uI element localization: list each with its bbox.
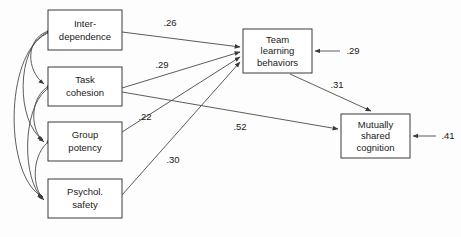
coefficient-label-disturbance-29: .29 — [346, 45, 359, 56]
coefficient-label-31: .31 — [330, 79, 343, 90]
path-diagram-canvas: Inter- dependence Task cohesion Group po… — [0, 0, 461, 237]
path-diagram-svg: Inter- dependence Task cohesion Group po… — [0, 0, 461, 237]
node-interdependence-label-line1: Inter- — [74, 18, 96, 29]
node-psychol-safety-label-line2: safety — [72, 199, 98, 210]
node-mutually-shared-cognition-label-line1: Mutually — [358, 119, 394, 130]
coefficient-label-22: .22 — [138, 111, 151, 122]
path-psychol-safety-to-mutually-shared — [122, 62, 240, 195]
node-team-learning-behaviors-label-line3: behaviors — [257, 57, 298, 68]
correlation-arcs-group — [14, 32, 46, 200]
node-group-potency[interactable]: Group potency — [48, 122, 122, 161]
node-psychol-safety-label-line1: Psychol. — [67, 186, 103, 197]
node-mutually-shared-cognition-label-line2: shared — [361, 130, 390, 141]
path-interdependence-to-team-learning — [122, 32, 240, 47]
node-task-cohesion-label-line2: cohesion — [66, 87, 104, 98]
node-interdependence-label-line2: dependence — [59, 31, 111, 42]
node-task-cohesion[interactable]: Task cohesion — [48, 67, 122, 106]
path-task-cohesion-to-mutually-shared — [122, 92, 338, 129]
node-group-potency-label-line1: Group — [72, 129, 98, 140]
coefficient-label-30: .30 — [166, 154, 179, 165]
node-interdependence[interactable]: Inter- dependence — [48, 10, 122, 50]
node-group-potency-label-line2: potency — [68, 142, 102, 153]
node-mutually-shared-cognition[interactable]: Mutually shared cognition — [341, 114, 410, 158]
coefficient-label-26: .26 — [163, 17, 176, 28]
node-psychol-safety[interactable]: Psychol. safety — [48, 179, 122, 218]
correlation-task-cohesion-psychol-safety — [28, 90, 46, 199]
node-task-cohesion-label-line1: Task — [75, 74, 95, 85]
coefficient-label-29-task-cohesion: .29 — [155, 59, 168, 70]
node-team-learning-behaviors[interactable]: Team learning behaviors — [243, 29, 312, 73]
coefficient-label-52: .52 — [233, 121, 246, 132]
node-team-learning-behaviors-label-line2: learning — [261, 45, 295, 56]
coefficient-label-disturbance-41: .41 — [441, 130, 454, 141]
node-team-learning-behaviors-label-line1: Team — [266, 34, 289, 45]
node-mutually-shared-cognition-label-line3: cognition — [356, 142, 394, 153]
